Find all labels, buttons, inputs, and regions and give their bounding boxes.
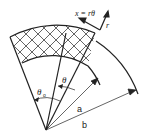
radius-a-label: a: [77, 104, 82, 114]
left-edge: [10, 37, 46, 130]
inner-boundary-arc: [22, 56, 88, 66]
coord-r-label: r: [106, 21, 110, 30]
sector-diagram: x = rθ r θ θ o a b: [0, 0, 147, 137]
radius-b-arrowhead: [128, 89, 136, 95]
theta0-label: θ: [37, 87, 42, 97]
r-axis-arrowhead: [104, 11, 109, 17]
right-edge: [46, 33, 95, 130]
radius-a-line: [46, 80, 96, 130]
arc-b: [96, 41, 138, 94]
radius-b-label: b: [82, 120, 87, 130]
hatched-band: [0, 20, 136, 80]
radius-b-line: [46, 91, 133, 130]
coord-x-label: x = rθ: [74, 9, 95, 18]
theta0-subscript: o: [43, 92, 46, 98]
theta-label: θ: [62, 75, 67, 85]
